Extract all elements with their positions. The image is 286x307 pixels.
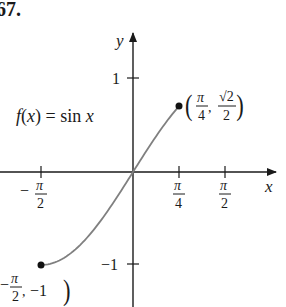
x-axis-label: x xyxy=(264,177,273,196)
sine-curve xyxy=(41,106,179,265)
point-label-lower: − π 2 , −1 ) xyxy=(0,271,70,307)
svg-text:4: 4 xyxy=(175,196,182,211)
svg-text:−1: −1 xyxy=(101,256,118,273)
endpoint-lower xyxy=(38,262,45,269)
svg-text:1: 1 xyxy=(112,70,120,87)
y-tick-1: 1 xyxy=(112,70,139,87)
svg-text:): ) xyxy=(63,273,70,307)
graph-canvas: 67. y x − π 2 π 4 π 2 1 −1 f(x) = sin x xyxy=(0,0,286,307)
svg-text:): ) xyxy=(236,88,243,122)
x-tick-pi-over-4: π 4 xyxy=(173,166,185,211)
svg-text:π: π xyxy=(11,271,19,286)
point-label-upper: ( π 4 , √2 2 ) xyxy=(185,88,244,123)
svg-text:2: 2 xyxy=(12,289,19,304)
x-tick-pi-over-2: π 2 xyxy=(219,166,231,211)
svg-text:4: 4 xyxy=(198,108,205,123)
svg-text:2: 2 xyxy=(37,196,44,211)
svg-text:π: π xyxy=(197,90,205,105)
svg-text:−: − xyxy=(20,182,29,199)
y-axis-label: y xyxy=(114,31,124,50)
x-tick-neg-pi-over-2: − π 2 xyxy=(20,166,47,211)
svg-text:−: − xyxy=(0,276,9,293)
svg-text:π: π xyxy=(36,178,44,193)
svg-text:π: π xyxy=(220,178,228,193)
problem-number: 67. xyxy=(0,0,21,20)
svg-text:π: π xyxy=(174,178,182,193)
endpoint-upper xyxy=(176,103,183,110)
svg-text:,: , xyxy=(22,284,26,299)
function-label: f(x) = sin x xyxy=(16,106,94,127)
svg-text:2: 2 xyxy=(223,108,230,123)
svg-text:√2: √2 xyxy=(219,89,234,104)
svg-text:,: , xyxy=(208,100,212,115)
svg-text:2: 2 xyxy=(221,196,228,211)
svg-text:−1: −1 xyxy=(30,282,47,299)
svg-text:(: ( xyxy=(185,88,192,122)
